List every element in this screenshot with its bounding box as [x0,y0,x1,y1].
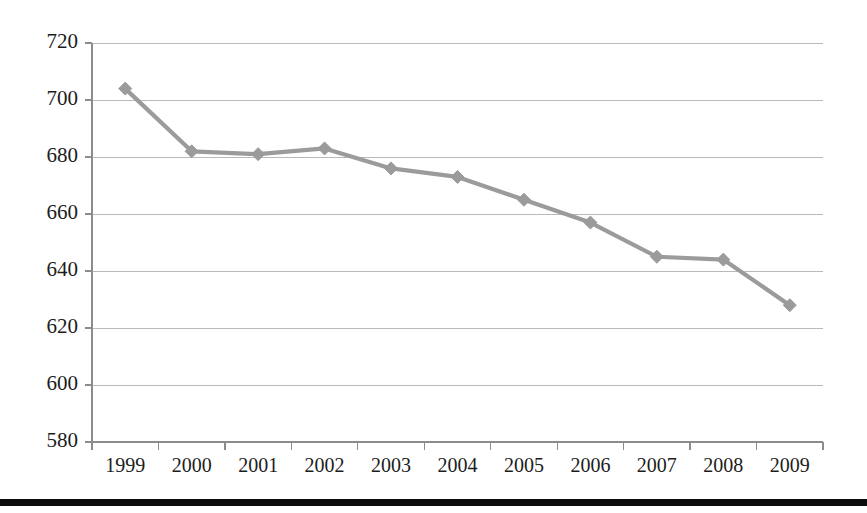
x-tick-label: 2006 [570,454,610,476]
x-tick-label: 2002 [305,454,345,476]
chart-background [0,0,867,513]
y-tick-label: 700 [47,86,79,110]
x-axis-tick-labels: 1999200020012002200320042005200620072008… [105,454,810,476]
x-tick-label: 2001 [238,454,278,476]
y-tick-label: 640 [47,257,79,281]
line-chart: 580600620640660680700720 199920002001200… [0,0,867,513]
y-tick-label: 600 [47,371,79,395]
x-tick-label: 2008 [703,454,743,476]
x-tick-label: 2003 [371,454,411,476]
y-tick-label: 680 [47,143,79,167]
y-tick-label: 720 [47,29,79,53]
y-tick-label: 620 [47,314,79,338]
x-tick-label: 2007 [637,454,677,476]
bottom-divider-rule [0,499,867,506]
x-tick-label: 1999 [105,454,145,476]
y-tick-label: 580 [47,428,79,452]
y-tick-label: 660 [47,200,79,224]
x-tick-label: 2009 [770,454,810,476]
x-tick-label: 2000 [172,454,212,476]
x-tick-label: 2004 [438,454,478,476]
chart-figure: 580600620640660680700720 199920002001200… [0,0,867,513]
x-tick-label: 2005 [504,454,544,476]
